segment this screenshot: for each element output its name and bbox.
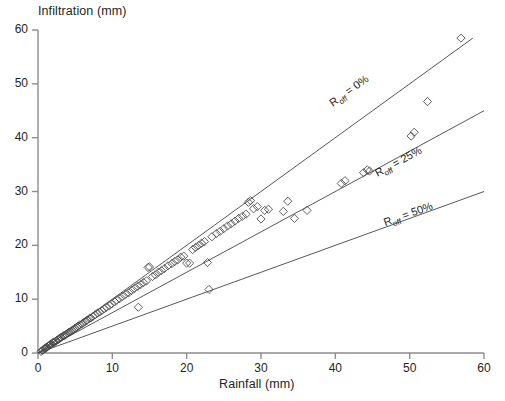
y-axis-ticks bbox=[32, 30, 38, 353]
x-tick-label: 30 bbox=[249, 361, 273, 375]
y-tick-label: 10 bbox=[4, 291, 28, 305]
x-tick-label: 40 bbox=[323, 361, 347, 375]
y-tick-label: 60 bbox=[4, 22, 28, 36]
y-tick-label: 20 bbox=[4, 237, 28, 251]
x-tick-label: 20 bbox=[175, 361, 199, 375]
x-tick-label: 60 bbox=[472, 361, 496, 375]
x-axis-ticks bbox=[38, 353, 484, 359]
infiltration-vs-rainfall-chart: Infiltration (mm) Rainfall (mm) 01020304… bbox=[0, 0, 505, 401]
scatter-data-points bbox=[37, 34, 465, 356]
x-tick-label: 10 bbox=[100, 361, 124, 375]
x-tick-label: 50 bbox=[398, 361, 422, 375]
x-tick-label: 0 bbox=[26, 361, 50, 375]
y-tick-label: 30 bbox=[4, 184, 28, 198]
y-tick-label: 50 bbox=[4, 76, 28, 90]
y-tick-label: 0 bbox=[4, 345, 28, 359]
y-tick-label: 40 bbox=[4, 130, 28, 144]
